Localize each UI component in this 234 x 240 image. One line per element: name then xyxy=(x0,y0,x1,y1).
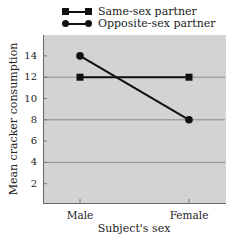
chart-lines xyxy=(0,0,234,240)
series-line xyxy=(80,56,189,120)
square-marker-icon xyxy=(77,74,84,81)
circle-marker-icon xyxy=(76,52,84,60)
square-marker-icon xyxy=(186,74,193,81)
circle-marker-icon xyxy=(185,116,193,124)
